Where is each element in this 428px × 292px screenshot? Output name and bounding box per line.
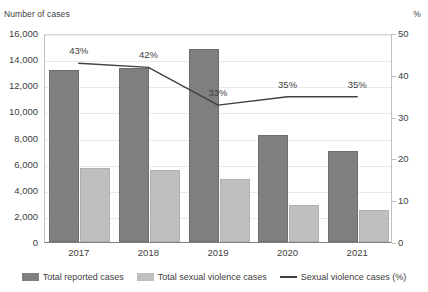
line-swatch-icon [280,273,297,281]
legend-item-0[interactable]: Total reported cases [22,272,124,282]
y-tick-mark-right [392,243,396,244]
y-tick-right: 0 [398,237,428,248]
y-tick-left: 8,000 [0,133,38,144]
y-tick-right: 10 [398,195,428,206]
y-tick-right: 30 [398,112,428,123]
x-label-2020: 2020 [253,247,323,258]
data-label-2021: 35% [337,79,377,90]
y-tick-left: 4,000 [0,185,38,196]
y-tick-left: 2,000 [0,211,38,222]
y-tick-right: 50 [398,28,428,39]
y-tick-left: 10,000 [0,106,38,117]
x-label-2017: 2017 [44,247,114,258]
legend-item-2[interactable]: Sexual violence cases (%) [280,272,407,282]
chart-legend: Total reported casesTotal sexual violenc… [0,272,428,282]
y-tick-mark-right [392,118,396,119]
y-tick-right: 20 [398,153,428,164]
y-tick-mark-right [392,76,396,77]
y-tick-right: 40 [398,70,428,81]
x-label-2021: 2021 [322,247,392,258]
chart-title-cropped [150,0,270,1]
sexual-violence-percent-line [79,63,357,105]
y-tick-left: 6,000 [0,159,38,170]
x-label-2019: 2019 [183,247,253,258]
chart-container: Number of cases % 02,0004,0006,0008,0001… [0,0,428,292]
data-label-2017: 43% [59,45,99,56]
y-tick-mark-right [392,159,396,160]
y-axis-title-right: % [413,9,421,19]
legend-label: Sexual violence cases (%) [301,272,407,282]
y-tick-left: 16,000 [0,28,38,39]
y-tick-left: 0 [0,237,38,248]
data-label-2018: 42% [128,49,168,60]
x-label-2018: 2018 [114,247,184,258]
legend-label: Total reported cases [43,272,124,282]
bar-swatch-dark-icon [22,273,39,281]
data-label-2020: 35% [268,79,308,90]
y-tick-left: 14,000 [0,54,38,65]
y-tick-mark-right [392,34,396,35]
legend-item-1[interactable]: Total sexual violence cases [137,272,267,282]
y-tick-left: 12,000 [0,80,38,91]
data-label-2019: 33% [198,87,238,98]
legend-label: Total sexual violence cases [158,272,267,282]
line-series-overlay [44,34,392,243]
y-axis-title-left: Number of cases [4,9,70,19]
bar-swatch-light-icon [137,273,154,281]
y-tick-mark-right [392,201,396,202]
